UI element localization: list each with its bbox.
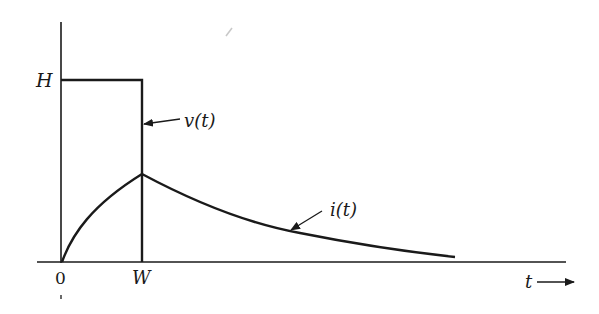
label-W: W: [132, 267, 152, 288]
voltage-pointer-arrow: [144, 119, 180, 124]
current-pointer-arrow: [291, 211, 322, 230]
label-i-of-t: i(t): [330, 199, 357, 220]
label-v-of-t: v(t): [184, 110, 215, 131]
label-H: H: [35, 69, 53, 91]
voltage-pulse-curve: [61, 80, 142, 262]
label-origin: 0: [55, 268, 66, 288]
scan-artifact: [226, 28, 232, 36]
pulse-response-diagram: H 0 W t v(t) i(t): [0, 0, 599, 314]
label-t-axis: t: [525, 271, 533, 292]
current-curve: [62, 174, 455, 262]
